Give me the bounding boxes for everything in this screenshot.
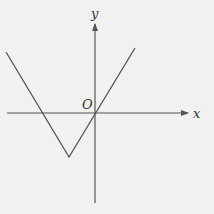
v-shaped-function-curve — [6, 48, 135, 157]
function-graph: y x O — [0, 0, 214, 214]
graph-svg: y x O — [0, 0, 214, 214]
y-axis-label: y — [90, 6, 99, 21]
origin-label: O — [82, 97, 93, 112]
x-axis-label: x — [193, 106, 201, 121]
